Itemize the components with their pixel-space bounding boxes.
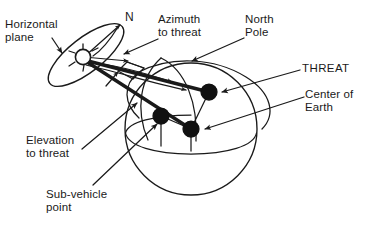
earth-center-point (183, 121, 199, 137)
label-north-mark: N (125, 11, 134, 24)
center-of-earth-leader (205, 97, 304, 129)
azimuth-sweep-arc-outer (86, 65, 186, 90)
elevation-leader (82, 103, 137, 149)
elevation-angle-arc (127, 62, 144, 68)
line-of-sight-to-threat (84, 60, 209, 92)
threat-point (201, 84, 217, 100)
north-pole-leader (192, 38, 244, 61)
label-sub-vehicle-point: Sub-vehicle point (46, 188, 107, 214)
label-azimuth-to-threat: Azimuth to threat (158, 13, 201, 39)
label-elevation-to-threat: Elevation to threat (26, 134, 74, 160)
azimuth-leader (124, 39, 158, 54)
diagram-canvas: Horizontal plane N Azimuth to threat Nor… (0, 0, 376, 237)
label-threat: THREAT (302, 62, 350, 75)
satellite-to-earth-center-line (84, 60, 191, 129)
label-center-of-earth: Center of Earth (305, 88, 353, 114)
label-north-pole: North Pole (245, 13, 274, 39)
label-horizontal-plane: Horizontal plane (5, 18, 58, 44)
sub-vehicle-point (153, 108, 169, 124)
